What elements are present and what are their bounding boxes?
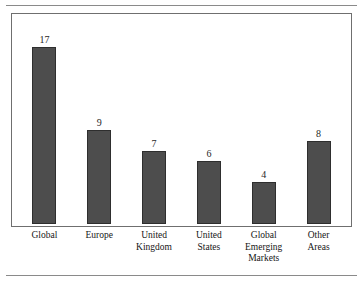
category-label-europe: Europe	[74, 230, 124, 278]
top-page-rule	[6, 5, 357, 6]
bar-slot[interactable]: 8	[294, 13, 344, 224]
bar-value-label: 8	[316, 128, 321, 139]
bar[interactable]	[87, 130, 111, 224]
bar-value-label: 9	[97, 117, 102, 128]
bar[interactable]	[32, 47, 56, 224]
bar[interactable]	[252, 182, 276, 224]
category-label-global: Global	[19, 230, 69, 278]
bar-value-label: 6	[206, 148, 211, 159]
bar-slot[interactable]: 7	[129, 13, 179, 224]
category-label-line: Kingdom	[129, 242, 179, 254]
bar-value-label: 7	[152, 138, 157, 149]
category-label-global-emerging-markets: GlobalEmergingMarkets	[239, 230, 289, 278]
category-label-united-states: UnitedStates	[184, 230, 234, 278]
category-label-line: Other	[294, 230, 344, 242]
bottom-page-rule	[6, 275, 357, 276]
bar-slot[interactable]: 17	[19, 13, 69, 224]
bar-value-label: 4	[261, 169, 266, 180]
category-label-line: States	[184, 242, 234, 254]
category-label-line: United	[184, 230, 234, 242]
category-label-line: Global	[239, 230, 289, 242]
category-label-line: Areas	[294, 242, 344, 254]
bar[interactable]	[197, 161, 221, 224]
bar-slot[interactable]: 6	[184, 13, 234, 224]
category-label-united-kingdom: UnitedKingdom	[129, 230, 179, 278]
bar[interactable]	[142, 151, 166, 224]
category-label-other-areas: OtherAreas	[294, 230, 344, 278]
category-label-line: Europe	[74, 230, 124, 242]
bar-slot[interactable]: 9	[74, 13, 124, 224]
category-label-line: Global	[19, 230, 69, 242]
bar-slot[interactable]: 4	[239, 13, 289, 224]
category-label-line: Emerging	[239, 242, 289, 254]
category-axis-labels: Global Europe UnitedKingdom UnitedStates…	[11, 230, 352, 278]
bar-value-label: 17	[39, 34, 49, 45]
bar[interactable]	[307, 141, 331, 224]
category-label-line: Markets	[239, 253, 289, 265]
category-label-line: United	[129, 230, 179, 242]
bar-series: 17 9 7 6 4 8	[11, 13, 352, 227]
